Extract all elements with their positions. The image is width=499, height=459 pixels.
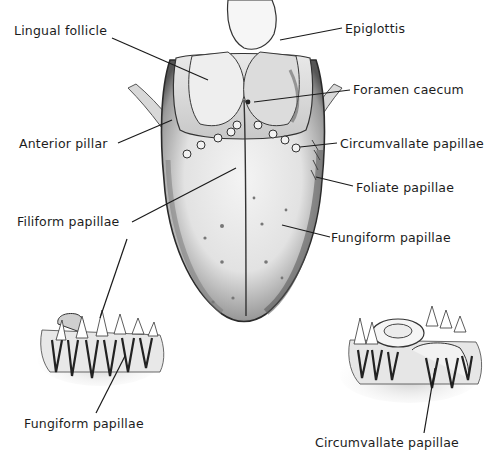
circumvallate-detail xyxy=(340,306,482,403)
tongue-anatomy-diagram: Lingual follicle Epiglottis Foramen caec… xyxy=(0,0,499,459)
epiglottis-shape xyxy=(228,0,277,49)
label-epiglottis: Epiglottis xyxy=(345,21,405,36)
label-circumvallate-papillae-detail: Circumvallate papillae xyxy=(315,435,459,450)
label-foliate-papillae: Foliate papillae xyxy=(356,180,454,195)
label-fungiform-papillae: Fungiform papillae xyxy=(331,230,451,245)
label-circumvallate-papillae: Circumvallate papillae xyxy=(340,136,484,151)
label-foramen-caecum: Foramen caecum xyxy=(353,82,464,97)
label-lingual-follicle: Lingual follicle xyxy=(14,23,107,38)
tongue-body xyxy=(162,52,325,322)
label-filiform-papillae: Filiform papillae xyxy=(17,214,120,229)
foramen-caecum-pit xyxy=(246,100,251,105)
label-anterior-pillar: Anterior pillar xyxy=(19,136,108,151)
label-fungiform-papillae-detail: Fungiform papillae xyxy=(24,416,144,431)
fungiform-detail xyxy=(38,310,164,386)
